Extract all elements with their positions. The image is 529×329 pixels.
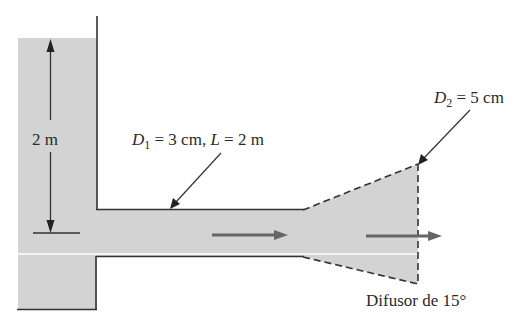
d2-leader-arrow	[418, 110, 470, 165]
d2-label: D2 = 5 cm	[433, 88, 504, 110]
diffuser-fluid	[303, 164, 418, 284]
tank-fluid	[18, 38, 97, 309]
height-label: 2 m	[32, 130, 58, 149]
diagram-canvas: 2 m D1 = 3 cm, L = 2 m D2 = 5 cm Difusor…	[0, 0, 529, 329]
diffuser-label: Difusor de 15°	[366, 291, 466, 310]
d1-length-label: D1 = 3 cm, L = 2 m	[131, 130, 264, 152]
d1-leader-arrow	[170, 153, 221, 209]
pipe-fluid	[96, 209, 304, 257]
